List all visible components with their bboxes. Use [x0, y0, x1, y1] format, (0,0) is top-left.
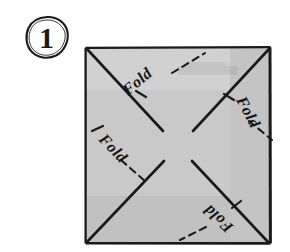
- step-number-label: 1: [39, 21, 54, 54]
- step-number-badge: 1: [26, 17, 67, 58]
- folding-instruction-diagram: 1: [0, 0, 290, 252]
- sheet-edge-top: [86, 47, 271, 48]
- figure-canvas: 1: [0, 0, 290, 252]
